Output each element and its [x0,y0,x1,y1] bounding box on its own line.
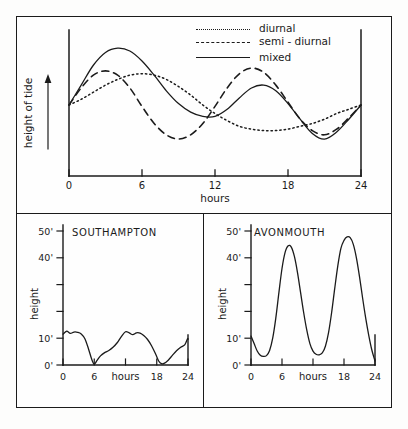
southampton-chart: 0'10'40'50'061824hoursheight [16,213,203,408]
tide-curve [251,237,375,361]
x-tick-label: 6 [91,371,97,382]
curve-semidiurnal [69,68,361,139]
legend-item-mixed: mixed [196,50,331,66]
y-tick-label: 0' [44,360,53,371]
top-y-arrow-head-icon [45,74,52,83]
tide-figure: 06121824hoursheight of tide diurnal semi… [0,0,408,429]
y-tick-label: 10' [226,333,241,344]
y-tick-label: 40' [38,252,53,263]
x-tick-label: 24 [369,371,381,382]
x-tick-label: 18 [338,371,350,382]
panel-avonmouth: 0'10'40'50'061824hoursheight [203,213,392,408]
x-tick-label: 0 [248,371,254,382]
x-tick-label: 24 [182,371,194,382]
legend-item-diurnal: diurnal [196,24,250,34]
top-x-tick-label: 24 [355,180,368,191]
y-tick-label: 40' [226,252,241,263]
top-x-tick-label: 0 [66,180,72,191]
x-axis-label: hours [299,371,327,382]
x-axis-label: hours [111,371,139,382]
legend: diurnal semi - diurnal mixed [196,24,331,65]
top-x-tick-label: 12 [209,180,222,191]
y-tick-label: 10' [38,333,53,344]
avonmouth-chart: 0'10'40'50'061824hoursheight [203,213,392,408]
legend-swatch-dashed-icon [196,37,250,47]
legend-label-diurnal: diurnal [259,21,295,37]
y-axis-label: height [29,288,40,320]
panel-southampton: 0'10'40'50'061824hoursheight [16,213,203,408]
avonmouth-title: AVONMOUTH [254,227,325,238]
y-tick-label: 50' [38,226,53,237]
legend-swatch-solid-icon [196,52,250,62]
x-tick-label: 6 [279,371,285,382]
legend-label-mixed: mixed [259,50,291,66]
top-x-tick-label: 18 [282,180,295,191]
top-x-tick-label: 6 [139,180,145,191]
y-tick-label: 50' [226,226,241,237]
y-axis-label: height [217,288,228,320]
southampton-title: SOUTHAMPTON [72,227,157,238]
y-tick-label: 0' [232,360,241,371]
curve-diurnal [69,74,361,131]
x-tick-label: 0 [60,371,66,382]
top-y-axis-label: height of tide [22,78,34,148]
x-tick-label: 18 [151,371,163,382]
top-x-axis-label: hours [200,192,230,204]
legend-swatch-dotted-icon [196,24,250,34]
